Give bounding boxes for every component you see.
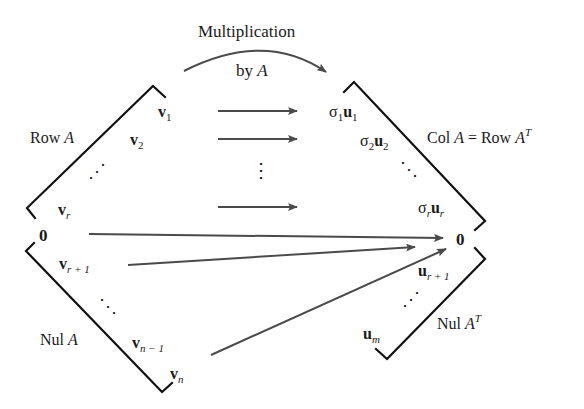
- v2-sym: v: [130, 131, 138, 148]
- arrow-zero: [89, 234, 443, 238]
- row-var: A: [64, 129, 74, 146]
- vector-vn-minus-1: vn − 1: [132, 335, 164, 351]
- s2: σ: [360, 132, 369, 149]
- nul-text: Nul: [40, 331, 68, 348]
- vn1-sym: v: [132, 334, 140, 351]
- ellipsis-col: ⋱: [400, 160, 418, 178]
- ellipsis-nul: ⋱: [99, 297, 117, 315]
- vector-ur-plus-1: ur + 1: [418, 263, 450, 279]
- eq-row-text: = Row: [464, 129, 515, 146]
- by-var: A: [257, 61, 267, 80]
- um-sub: m: [372, 333, 380, 345]
- zero-right: 0: [456, 231, 465, 248]
- s1: σ: [329, 103, 338, 120]
- vr-sub: r: [66, 209, 70, 221]
- title-multiplication: Multiplication: [198, 23, 295, 40]
- null-space-bracket: [26, 243, 172, 392]
- ur1-sym: u: [418, 262, 427, 279]
- row-space-bracket: [27, 86, 165, 218]
- nul-at-label: Nul AT: [437, 316, 481, 332]
- row-text: Row: [30, 129, 64, 146]
- sr: σ: [418, 199, 427, 216]
- u2-sym: u: [374, 132, 383, 149]
- row-var-right: A: [515, 129, 525, 146]
- um-sym: u: [363, 325, 372, 342]
- vector-v2: v2: [130, 132, 144, 148]
- u1-sub: 1: [352, 111, 358, 123]
- vector-v1: v1: [158, 104, 172, 120]
- vn-sub: n: [178, 373, 184, 385]
- row-a-label: Row A: [30, 130, 74, 146]
- col-a-label: Col A = Row AT: [427, 130, 531, 146]
- svd-mapping-diagram: [0, 0, 584, 409]
- col-var: A: [454, 129, 464, 146]
- vr-sym: v: [58, 201, 66, 218]
- nul-a-label: Nul A: [40, 332, 78, 348]
- image-sigma1-u1: σ1u1: [329, 104, 358, 120]
- vn-sym: v: [170, 365, 178, 382]
- image-sigma2-u2: σ2u2: [360, 133, 389, 149]
- ur-sym: u: [431, 199, 440, 216]
- vector-vr: vr: [58, 202, 70, 218]
- by-text: by: [236, 61, 257, 80]
- ellipsis-row: ⋰: [88, 162, 106, 180]
- nul-at-sup: T: [475, 312, 481, 324]
- column-space-bracket: [344, 82, 485, 230]
- zero-left: 0: [39, 227, 48, 244]
- vertical-ellipsis: ⋮: [251, 160, 271, 180]
- v1-sub: 1: [166, 111, 172, 123]
- v2-sub: 2: [138, 139, 144, 151]
- vector-um: um: [363, 326, 380, 342]
- vr1-sub: r + 1: [67, 263, 90, 275]
- vr1-sym: v: [59, 255, 67, 272]
- ur-sub: r: [440, 207, 444, 219]
- transpose-sup: T: [525, 126, 531, 138]
- vector-vr-plus-1: vr + 1: [59, 256, 90, 272]
- nul-at-var: A: [465, 315, 475, 332]
- vn1-sub: n − 1: [140, 342, 164, 354]
- ellipsis-leftnul: ⋰: [402, 290, 420, 308]
- vector-vn: vn: [170, 366, 184, 382]
- nul-var: A: [68, 331, 78, 348]
- arrow-vr-plus-1: [128, 247, 415, 265]
- ur1-sub: r + 1: [427, 270, 450, 282]
- nul-at-text: Nul: [437, 315, 465, 332]
- u1-sym: u: [343, 103, 352, 120]
- v1-sym: v: [158, 103, 166, 120]
- col-text: Col: [427, 129, 454, 146]
- title-by-a: by A: [236, 62, 268, 79]
- image-sigmar-ur: σrur: [418, 200, 444, 216]
- u2-sub: 2: [383, 140, 389, 152]
